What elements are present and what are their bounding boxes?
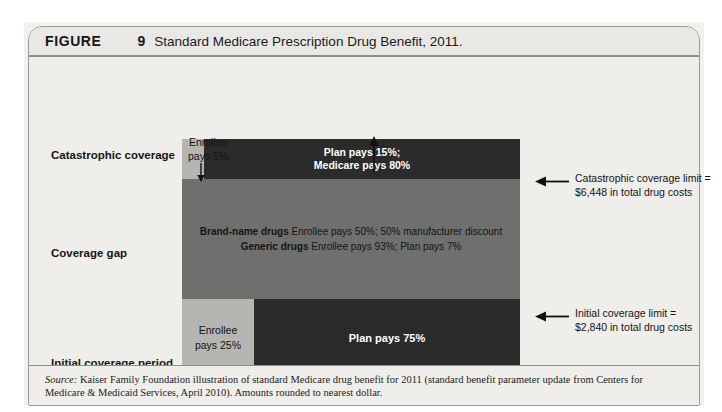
gap-generic-label: Generic drugs: [241, 241, 309, 252]
source-note: Source: Kaiser Family Foundation illustr…: [29, 365, 699, 405]
figure-number: 9: [138, 33, 146, 49]
band-catastrophic-coverage: Plan pays 15%; Medicare pays 80%: [182, 139, 520, 179]
annotation-initial-limit-line1: Initial coverage limit =: [575, 306, 692, 320]
segment-catastrophic-plan-medicare-share: Plan pays 15%; Medicare pays 80%: [204, 139, 520, 179]
gap-brand-name-label: Brand-name drugs: [200, 226, 289, 237]
page-edge-bottom: [0, 406, 722, 412]
page-edge-left: [0, 0, 24, 412]
source-text: Kaiser Family Foundation illustration of…: [45, 374, 643, 398]
gap-generic-line: Generic drugs Enrollee pays 93%; Plan pa…: [241, 239, 462, 254]
annotation-initial-coverage-limit: Initial coverage limit = $2,840 in total…: [575, 306, 692, 334]
annotation-enrollee-pays-5-line2: pays 5%: [188, 149, 228, 163]
stacked-bar-graphic: Plan pays 15%; Medicare pays 80% Brand-n…: [182, 139, 520, 389]
page-edge-right: [704, 0, 722, 412]
annotation-catastrophic-limit-line1: Catastrophic coverage limit =: [575, 171, 711, 185]
figure-container: FIGURE 9 Standard Medicare Prescription …: [28, 26, 700, 406]
gap-generic-detail: Enrollee pays 93%; Plan pays 7%: [308, 241, 461, 252]
annotation-initial-limit-line2: $2,840 in total drug costs: [575, 320, 692, 334]
annotation-enrollee-pays-5-line1: Enrollee: [188, 135, 228, 149]
band-coverage-gap: Brand-name drugs Enrollee pays 50%; 50% …: [182, 179, 520, 299]
annotation-catastrophic-limit-line2: $6,448 in total drug costs: [575, 185, 711, 199]
initial-enrollee-line2: pays 25%: [195, 338, 241, 353]
annotation-catastrophic-coverage-limit: Catastrophic coverage limit = $6,448 in …: [575, 171, 711, 199]
arrow-left-icon: [535, 175, 569, 188]
annotation-enrollee-pays-5: Enrollee pays 5%: [188, 135, 228, 163]
chart-area: Catastrophic coverage Coverage gap Initi…: [29, 57, 699, 369]
row-label-coverage-gap: Coverage gap: [51, 247, 127, 259]
arrow-up-icon: [367, 136, 381, 172]
source-word: Source:: [45, 374, 77, 385]
page-background: FIGURE 9 Standard Medicare Prescription …: [0, 0, 722, 412]
catastrophic-plan-pays-line1: Plan pays 15%;: [324, 146, 400, 159]
arrow-down-icon: [195, 163, 207, 183]
figure-header: FIGURE 9 Standard Medicare Prescription …: [29, 27, 699, 57]
figure-title: Standard Medicare Prescription Drug Bene…: [154, 34, 462, 49]
row-label-catastrophic-coverage: Catastrophic coverage: [51, 149, 175, 161]
initial-enrollee-line1: Enrollee: [199, 323, 238, 338]
gap-brand-name-detail: Enrollee pays 50%; 50% manufacturer disc…: [289, 226, 502, 237]
page-edge-top: [0, 0, 722, 22]
arrow-left-icon: [535, 310, 569, 323]
gap-brand-name-line: Brand-name drugs Enrollee pays 50%; 50% …: [200, 224, 502, 239]
figure-label: FIGURE: [45, 33, 102, 49]
catastrophic-medicare-pays-line2: Medicare pays 80%: [314, 159, 410, 172]
